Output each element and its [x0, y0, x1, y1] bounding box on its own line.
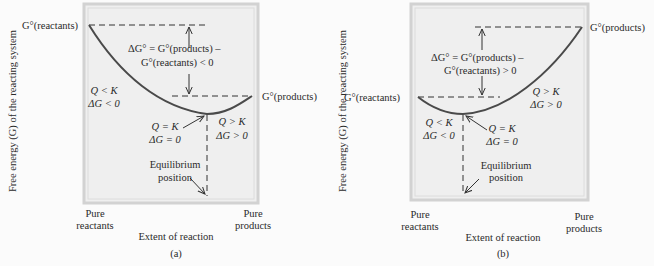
- right-region-q: Q > K: [533, 86, 561, 97]
- x-left-label-1: Pure: [85, 208, 105, 219]
- delta-g-line2: G°(reactants) > 0: [444, 65, 517, 77]
- x-right-label-1: Pure: [574, 211, 594, 222]
- x-right-label-1: Pure: [243, 208, 263, 219]
- right-region-dg: ΔG > 0: [215, 130, 248, 141]
- x-left-label-2: reactants: [76, 220, 113, 231]
- free-energy-diagrams: G°(reactants) G°(products) ΔG° = G°(prod…: [0, 0, 654, 266]
- x-right-label-2: products: [235, 220, 271, 231]
- g-reactants-label: G°(reactants): [344, 92, 401, 104]
- x-axis-label: Extent of reaction: [138, 231, 214, 242]
- g-products-label: G°(products): [262, 91, 317, 103]
- panel-a: G°(reactants) G°(products) ΔG° = G°(prod…: [7, 4, 317, 260]
- minimum-dg: ΔG = 0: [485, 136, 518, 147]
- g-reactants-label: G°(reactants): [22, 20, 79, 32]
- x-left-label-2: reactants: [401, 221, 438, 232]
- delta-g-line1: ΔG° = G°(products) –: [128, 43, 221, 55]
- delta-g-line1: ΔG° = G°(products) –: [431, 52, 524, 64]
- equilibrium-label-2: position: [158, 172, 193, 183]
- equilibrium-label-1: Equilibrium: [150, 159, 201, 170]
- left-region-dg: ΔG < 0: [422, 130, 455, 141]
- x-right-label-2: products: [566, 223, 602, 234]
- delta-g-line2: G°(reactants) < 0: [141, 57, 214, 69]
- minimum-q: Q = K: [152, 121, 180, 132]
- left-region-q: Q < K: [91, 85, 119, 96]
- right-region-q: Q > K: [219, 116, 247, 127]
- y-axis-label: Free energy (G) of the reacting system: [337, 30, 349, 192]
- left-region-dg: ΔG < 0: [87, 98, 120, 109]
- panel-b: G°(products) G°(reactants) ΔG° = G°(prod…: [337, 4, 645, 260]
- minimum-q: Q = K: [489, 123, 517, 134]
- right-region-dg: ΔG > 0: [529, 99, 562, 110]
- equilibrium-label-1: Equilibrium: [481, 160, 532, 171]
- panel-caption: (a): [170, 248, 182, 260]
- equilibrium-label-2: position: [489, 172, 524, 183]
- x-left-label-1: Pure: [410, 209, 430, 220]
- y-axis-label: Free energy (G) of the reacting system: [7, 30, 19, 192]
- left-region-q: Q < K: [426, 117, 454, 128]
- minimum-dg: ΔG = 0: [148, 134, 181, 145]
- panel-caption: (b): [497, 248, 510, 260]
- g-products-label: G°(products): [590, 22, 645, 34]
- x-axis-label: Extent of reaction: [465, 232, 541, 243]
